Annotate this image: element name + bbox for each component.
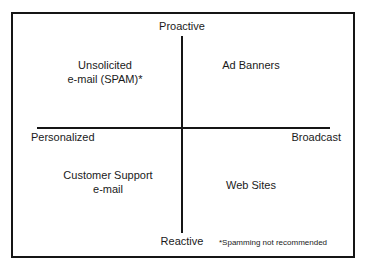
horizontal-axis-line: [37, 127, 330, 129]
quadrant-label-unsolicited-email: Unsolicited e-mail (SPAM)*: [42, 58, 168, 86]
axis-label-broadcast: Broadcast: [291, 131, 341, 144]
axis-label-personalized: Personalized: [31, 131, 95, 144]
quadrant-label-line-1: Customer Support: [44, 168, 172, 182]
quadrant-label-customer-support-email: Customer Support e-mail: [44, 168, 172, 196]
quadrant-label-web-sites: Web Sites: [190, 178, 312, 192]
footnote-spamming-disclaimer: *Spamming not recommended: [219, 238, 327, 248]
quadrant-diagram: Proactive Reactive Personalized Broadcas…: [0, 0, 367, 272]
quadrant-label-ad-banners: Ad Banners: [190, 58, 312, 72]
quadrant-label-line-2: e-mail (SPAM)*: [42, 72, 168, 86]
quadrant-label-line-1: Ad Banners: [190, 58, 312, 72]
quadrant-label-line-2: e-mail: [44, 182, 172, 196]
vertical-axis-line: [181, 36, 183, 233]
quadrant-label-line-1: Web Sites: [190, 178, 312, 192]
axis-label-proactive: Proactive: [0, 20, 367, 33]
quadrant-label-line-1: Unsolicited: [42, 58, 168, 72]
